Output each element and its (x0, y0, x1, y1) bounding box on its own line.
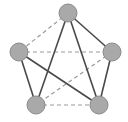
node-left (10, 43, 28, 61)
edge-top-bottom-left-solid (36, 13, 68, 105)
nodes-layer (10, 4, 121, 114)
graph-diagram (0, 0, 128, 122)
node-bottom-left (27, 96, 45, 114)
node-right (103, 43, 121, 61)
node-top (59, 4, 77, 22)
node-bottom-right (90, 96, 108, 114)
edges-layer (19, 13, 112, 105)
